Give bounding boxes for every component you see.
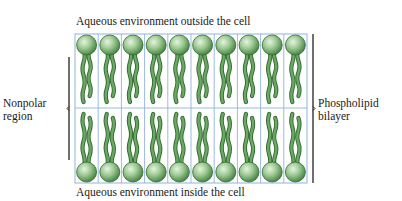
- nonpolar-label-line1: Nonpolar: [3, 97, 46, 110]
- phospholipid-bilayer-label: Phospholipid bilayer: [318, 97, 379, 123]
- outside-cell-label: Aqueous environment outside the cell: [76, 15, 250, 28]
- inside-cell-label: Aqueous environment inside the cell: [76, 186, 245, 199]
- nonpolar-label-line2: region: [3, 110, 46, 123]
- nonpolar-region-label: Nonpolar region: [3, 97, 46, 123]
- bilayer-label-line2: bilayer: [318, 110, 379, 123]
- bilayer-label-line1: Phospholipid: [318, 97, 379, 110]
